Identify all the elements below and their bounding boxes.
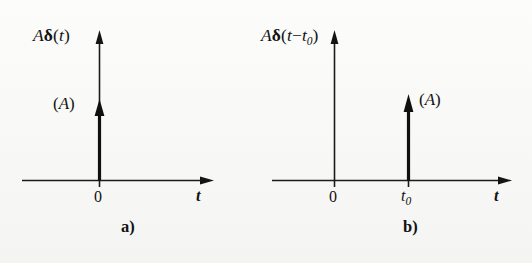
panel-b-minus-symbol: − <box>292 25 302 45</box>
panel-a-amp-close-paren: ) <box>69 94 75 113</box>
panel-b-x-axis-arrowhead <box>498 176 512 184</box>
panel-b-amp-value: A <box>425 90 435 109</box>
panel-a-delta-at-zero: Aδ(t) (A) 0 t a) <box>0 0 266 263</box>
panel-b-caption: b) <box>403 219 418 236</box>
panel-b-close-paren: ) <box>313 25 319 45</box>
panel-a-caption: a) <box>121 219 135 236</box>
panel-a-amplitude-annotation: (A) <box>53 95 75 112</box>
panel-a-y-axis-label: Aδ(t) <box>33 27 70 45</box>
panel-a-delta-symbol: δ <box>44 25 53 45</box>
panel-a-amplitude-symbol: A <box>33 25 44 45</box>
figure-root: Aδ(t) (A) 0 t a) <box>0 0 532 263</box>
panel-b-x-axis-variable-label: t <box>494 188 499 205</box>
panel-a-y-axis-arrowhead <box>96 30 104 44</box>
panel-b-t0-subscript: 0 <box>405 195 411 207</box>
panel-a-impulse-arrowhead <box>95 99 105 116</box>
panel-b-amplitude-symbol: A <box>261 25 272 45</box>
panel-b-amplitude-annotation: (A) <box>419 91 441 108</box>
panel-b-t0-tick-label: t0 <box>401 188 411 207</box>
panel-b-y-axis-label: Aδ(t−t0) <box>261 27 319 47</box>
panel-a-x-axis-variable-label: t <box>196 188 201 205</box>
panel-a-amp-value: A <box>59 94 69 113</box>
panel-b-origin-tick-label: 0 <box>329 189 337 205</box>
panel-b-y-axis-arrowhead <box>331 30 339 44</box>
panel-b-amp-close-paren: ) <box>435 90 441 109</box>
panel-a-origin-tick-label: 0 <box>94 189 102 205</box>
panel-a-close-paren: ) <box>64 25 70 45</box>
panel-b-impulse-arrowhead <box>404 94 414 112</box>
panel-b-delta-shifted: Aδ(t−t0) (A) 0 t0 t b) <box>266 0 532 263</box>
panel-b-delta-symbol: δ <box>272 25 281 45</box>
panel-a-x-axis-arrowhead <box>200 176 214 184</box>
